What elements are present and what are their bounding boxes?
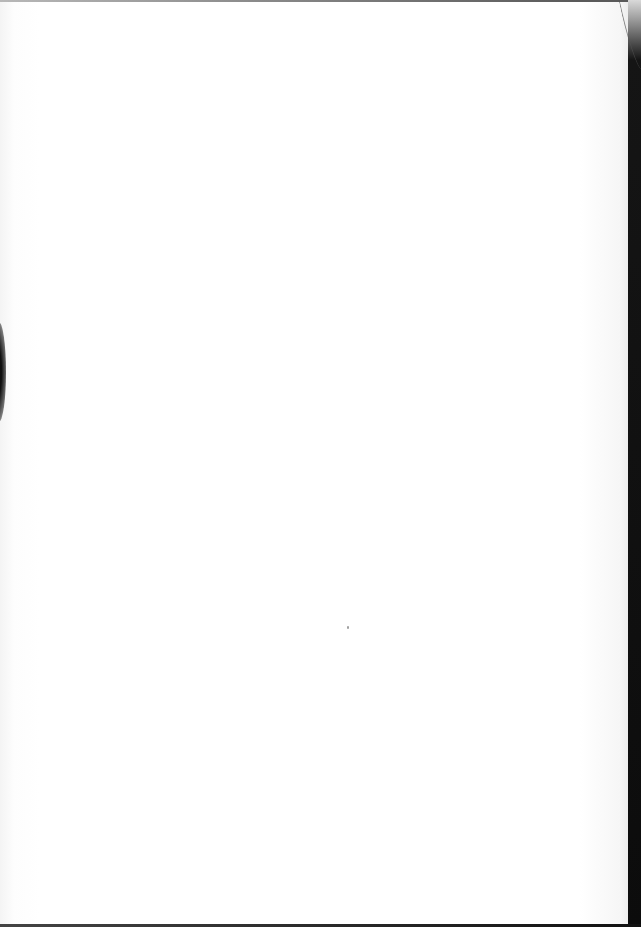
scanner-edge-right bbox=[628, 0, 641, 927]
dust-speck bbox=[347, 626, 349, 629]
blank-paper-sheet bbox=[0, 2, 628, 924]
scanner-edge-top bbox=[0, 0, 641, 2]
page-content bbox=[40, 42, 580, 882]
scanned-page bbox=[0, 0, 641, 927]
